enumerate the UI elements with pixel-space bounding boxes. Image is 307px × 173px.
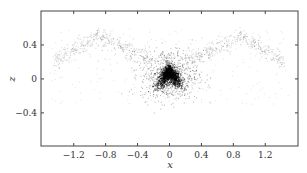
x-axis-label: x bbox=[167, 159, 173, 170]
x-tick-label: 0.8 bbox=[226, 150, 241, 160]
y-tick-label: 0 bbox=[31, 74, 37, 84]
x-tick-label: −0.4 bbox=[127, 150, 149, 160]
x-tick-label: −0.8 bbox=[95, 150, 117, 160]
y-tick-label: −0.4 bbox=[15, 108, 37, 118]
x-tick-label: −1.2 bbox=[63, 150, 85, 160]
y-tick-label: 0.4 bbox=[23, 40, 38, 50]
x-tick-label: 0.4 bbox=[194, 150, 209, 160]
scatter-chart: −1.2−0.8−0.400.40.81.2 −0.400.4 x z bbox=[0, 0, 307, 173]
data-points bbox=[50, 27, 289, 114]
y-axis-label: z bbox=[6, 76, 17, 83]
x-tick-label: 1.2 bbox=[258, 150, 272, 160]
